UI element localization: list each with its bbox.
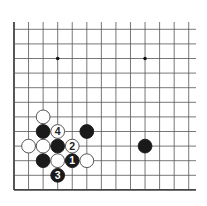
black-stone-1: 1 bbox=[65, 154, 79, 168]
white-stone bbox=[22, 139, 36, 153]
move-number-label: 1 bbox=[69, 154, 75, 166]
white-stone-2: 2 bbox=[65, 139, 79, 153]
black-stone-icon bbox=[80, 125, 94, 139]
white-stone-4: 4 bbox=[51, 125, 65, 139]
move-number-label: 2 bbox=[69, 140, 75, 152]
move-number-label: 3 bbox=[55, 169, 61, 181]
black-stone-icon bbox=[36, 125, 50, 139]
white-stone bbox=[80, 154, 94, 168]
black-stone bbox=[80, 125, 94, 139]
star-point-icon bbox=[56, 57, 60, 61]
move-number-label: 4 bbox=[55, 125, 61, 137]
black-stone bbox=[138, 139, 152, 153]
black-stone-icon bbox=[36, 154, 50, 168]
black-stone-3: 3 bbox=[51, 168, 65, 182]
white-stone-icon bbox=[80, 154, 94, 168]
black-stone-icon bbox=[51, 139, 65, 153]
black-stone bbox=[51, 139, 65, 153]
star-point-icon bbox=[143, 57, 147, 61]
black-stone bbox=[36, 154, 50, 168]
white-stone bbox=[36, 139, 50, 153]
white-stone-icon bbox=[36, 139, 50, 153]
white-stone-icon bbox=[22, 139, 36, 153]
white-stone-icon bbox=[51, 154, 65, 168]
white-stone bbox=[51, 154, 65, 168]
white-stone-icon bbox=[36, 110, 50, 124]
go-board-diagram: 4213 bbox=[0, 0, 207, 206]
white-stone bbox=[36, 110, 50, 124]
black-stone-icon bbox=[138, 139, 152, 153]
black-stone bbox=[36, 125, 50, 139]
